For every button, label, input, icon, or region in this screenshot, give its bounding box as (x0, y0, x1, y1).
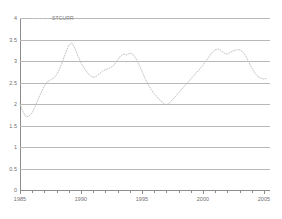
y-axis-tick-label: 0.5 (9, 166, 17, 172)
y-axis-tick-label: 4 (14, 15, 17, 21)
y-axis-tick-label: 1.5 (9, 123, 17, 129)
x-axis-tick (130, 190, 131, 193)
x-axis-tick (203, 190, 204, 194)
gridline-y (20, 126, 270, 127)
x-axis-tick (44, 190, 45, 193)
gridline-y (20, 169, 270, 170)
x-axis-tick (81, 190, 82, 194)
x-axis-tick-label: 2000 (197, 196, 209, 202)
x-axis-tick-label: 2005 (258, 196, 270, 202)
x-axis-tick (227, 190, 228, 193)
legend-line-marker-icon (32, 18, 49, 19)
x-axis-tick (57, 190, 58, 193)
x-axis-tick (264, 190, 265, 194)
x-axis-tick (20, 190, 21, 194)
x-axis-tick (179, 190, 180, 193)
y-axis-tick-label: 0 (14, 187, 17, 193)
y-axis-tick-label: 2 (14, 101, 17, 107)
gridline-y (20, 83, 270, 84)
x-axis-tick-label: 1985 (14, 196, 26, 202)
x-axis-tick (166, 190, 167, 193)
y-axis-tick-label: 3 (14, 58, 17, 64)
x-axis-tick (32, 190, 33, 193)
plot-area: 43.532.521.510.50 (20, 18, 270, 190)
gridline-y (20, 104, 270, 105)
x-axis-tick (215, 190, 216, 193)
x-axis-tick (93, 190, 94, 193)
y-axis-tick-label: 3.5 (9, 37, 17, 43)
x-axis-tick (118, 190, 119, 193)
x-axis-tick-label: 1995 (136, 196, 148, 202)
gridline-y (20, 61, 270, 62)
x-axis-tick (240, 190, 241, 193)
x-axis-tick (191, 190, 192, 193)
x-axis-tick (142, 190, 143, 194)
x-axis-tick-label: 1990 (75, 196, 87, 202)
gridline-y (20, 40, 270, 41)
y-axis-tick-label: 1 (14, 144, 17, 150)
x-axis-tick (105, 190, 106, 193)
y-axis-tick-label: 2.5 (9, 80, 17, 86)
x-axis-tick (252, 190, 253, 193)
x-axis-tick (154, 190, 155, 193)
x-axis-tick (69, 190, 70, 193)
chart-container: 43.532.521.510.50 STCURR 198519901995200… (0, 0, 282, 219)
legend-label-stcurr: STCURR (52, 15, 74, 21)
legend: STCURR (32, 15, 74, 21)
gridline-y (20, 147, 270, 148)
